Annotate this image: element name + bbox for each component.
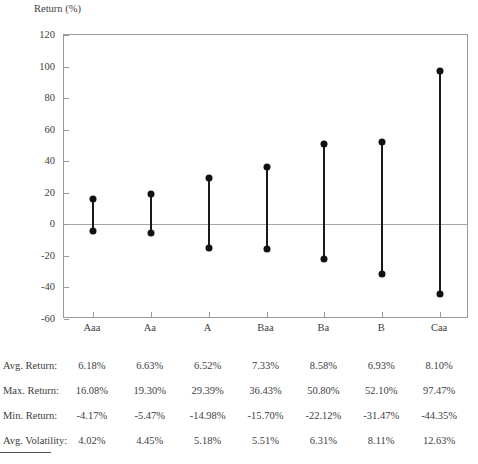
- x-axis-tick: [324, 312, 325, 317]
- y-axis-tick: [64, 319, 69, 320]
- table-row-label: Avg. Volatility:: [3, 434, 67, 445]
- y-axis-tick-label: 20: [15, 186, 55, 197]
- table-row: Min. Return:-4.17%-5.47%-14.98%-15.70%-2…: [0, 402, 478, 427]
- table-cell: 6.93%: [368, 359, 395, 370]
- table-cell: 97.47%: [423, 384, 455, 395]
- y-axis-tick-label: 120: [15, 29, 55, 40]
- x-axis-tick: [382, 312, 383, 317]
- table-cell: -5.47%: [134, 409, 165, 420]
- table-cell: 8.11%: [368, 434, 395, 445]
- y-axis-tick-label: -20: [15, 249, 55, 260]
- y-axis-title: Return (%): [34, 3, 81, 14]
- table-cell: 8.10%: [426, 359, 453, 370]
- table-cell: 12.63%: [423, 434, 455, 445]
- table-cell: -22.12%: [305, 409, 341, 420]
- max-return-marker: [379, 139, 386, 146]
- table-cell: 5.51%: [252, 434, 279, 445]
- table-cell: -4.17%: [77, 409, 108, 420]
- range-stem: [150, 194, 152, 233]
- table-cell: 16.08%: [76, 384, 108, 395]
- table-cell: 8.58%: [310, 359, 337, 370]
- min-return-marker: [379, 270, 386, 277]
- y-axis-tick-label: 40: [15, 155, 55, 166]
- table-cell: 6.52%: [194, 359, 221, 370]
- table-cell: 6.31%: [310, 434, 337, 445]
- plot-area: [63, 34, 468, 318]
- range-stem: [323, 144, 325, 259]
- min-return-marker: [147, 229, 154, 236]
- x-axis-tick: [93, 312, 94, 317]
- table-row-label: Avg. Return:: [3, 359, 57, 370]
- table-row: Avg. Return:6.18%6.63%6.52%7.33%8.58%6.9…: [0, 352, 478, 377]
- table-cell: 7.33%: [252, 359, 279, 370]
- max-return-marker: [205, 174, 212, 181]
- range-stem: [439, 71, 441, 295]
- max-return-marker: [321, 141, 328, 148]
- x-axis-category-label: Baa: [257, 322, 273, 333]
- max-return-marker: [437, 67, 444, 74]
- table-cell: 6.63%: [136, 359, 163, 370]
- min-return-marker: [437, 291, 444, 298]
- table-cell: -44.35%: [421, 409, 457, 420]
- range-stem: [266, 167, 268, 249]
- table-row-label: Min. Return:: [3, 409, 57, 420]
- table-row-label: Max. Return:: [3, 384, 59, 395]
- table-cell: -31.47%: [363, 409, 399, 420]
- max-return-marker: [147, 190, 154, 197]
- range-stem: [381, 142, 383, 274]
- x-axis-category-label: B: [378, 322, 385, 333]
- y-axis-tick: [64, 130, 69, 131]
- x-axis-tick: [440, 312, 441, 317]
- y-axis-tick: [64, 287, 69, 288]
- table-cell: 52.10%: [365, 384, 397, 395]
- x-axis-tick: [151, 312, 152, 317]
- table-cell: 4.45%: [136, 434, 163, 445]
- table-cell: 19.30%: [134, 384, 166, 395]
- range-stem: [92, 199, 94, 231]
- x-axis-category-label: A: [204, 322, 212, 333]
- table-cell: -15.70%: [248, 409, 284, 420]
- y-axis-tick-label: -40: [15, 281, 55, 292]
- y-axis-tick: [64, 35, 69, 36]
- min-return-marker: [205, 244, 212, 251]
- footer-rule: [0, 452, 51, 453]
- y-axis-tick-label: -60: [15, 313, 55, 324]
- y-axis-tick-label: 100: [15, 60, 55, 71]
- x-axis-tick: [267, 312, 268, 317]
- table-cell: 29.39%: [191, 384, 223, 395]
- min-return-marker: [89, 227, 96, 234]
- y-axis-tick: [64, 193, 69, 194]
- max-return-marker: [263, 163, 270, 170]
- table-cell: 6.18%: [78, 359, 105, 370]
- x-axis-category-label: Aaa: [83, 322, 100, 333]
- table-cell: 36.43%: [249, 384, 281, 395]
- table-row: Max. Return:16.08%19.30%29.39%36.43%50.8…: [0, 377, 478, 402]
- y-axis-tick-label: 0: [15, 218, 55, 229]
- x-axis-category-label: Caa: [431, 322, 447, 333]
- table-row: Avg. Volatility:4.02%4.45%5.18%5.51%6.31…: [0, 427, 478, 452]
- table-cell: -14.98%: [190, 409, 226, 420]
- y-axis-tick: [64, 256, 69, 257]
- y-axis-tick-label: 60: [15, 123, 55, 134]
- table-cell: 4.02%: [78, 434, 105, 445]
- statistics-table: Avg. Return:6.18%6.63%6.52%7.33%8.58%6.9…: [0, 352, 478, 452]
- y-axis-tick: [64, 98, 69, 99]
- min-return-marker: [321, 256, 328, 263]
- y-axis-tick: [64, 224, 69, 225]
- x-axis-tick: [209, 312, 210, 317]
- x-axis-category-label: Aa: [144, 322, 156, 333]
- range-stem: [208, 178, 210, 248]
- max-return-marker: [89, 195, 96, 202]
- min-return-marker: [263, 246, 270, 253]
- y-axis-tick-label: 80: [15, 92, 55, 103]
- x-axis-category-label: Ba: [318, 322, 330, 333]
- y-axis-tick: [64, 161, 69, 162]
- y-axis-tick: [64, 67, 69, 68]
- table-cell: 50.80%: [307, 384, 339, 395]
- table-cell: 5.18%: [194, 434, 221, 445]
